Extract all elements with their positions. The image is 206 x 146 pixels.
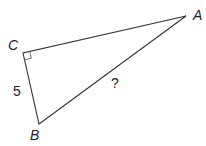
triangle-diagram: A B C 5 ? bbox=[0, 0, 206, 146]
triangle-abc bbox=[23, 16, 186, 124]
vertex-label-b: B bbox=[30, 127, 39, 143]
side-label-cb: 5 bbox=[13, 83, 21, 99]
vertex-label-a: A bbox=[192, 7, 202, 23]
vertex-label-c: C bbox=[8, 37, 19, 53]
side-label-ab-unknown: ? bbox=[111, 75, 119, 91]
